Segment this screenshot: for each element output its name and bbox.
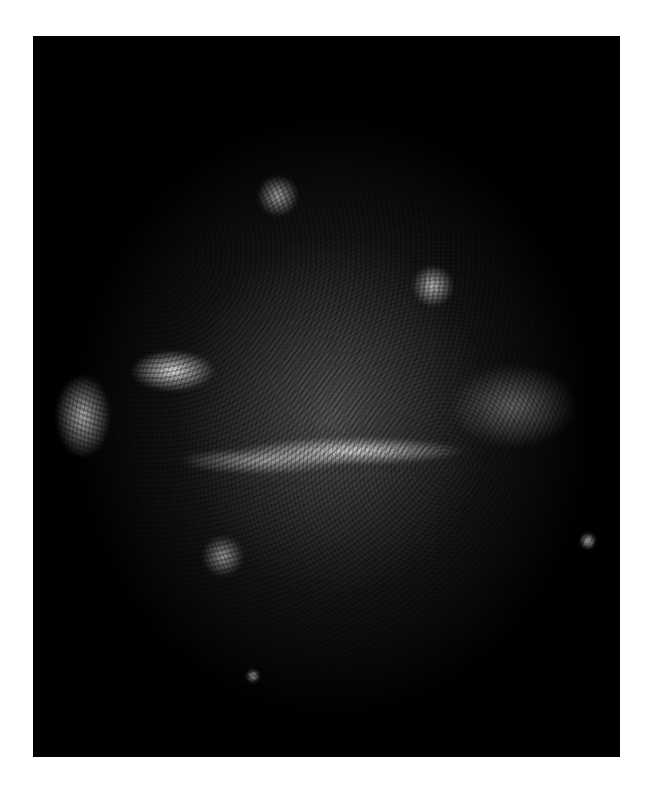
image-noise xyxy=(33,36,620,757)
image-frame xyxy=(33,36,620,757)
